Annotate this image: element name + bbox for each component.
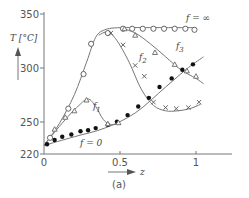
cross-marker — [121, 43, 125, 47]
open-circle-marker — [183, 26, 188, 31]
arrow-up-icon — [15, 47, 21, 56]
y-tick-label-220: 220 — [20, 149, 39, 160]
filled-circle-marker — [45, 142, 49, 146]
triangle-marker — [184, 68, 189, 73]
cross-marker — [174, 106, 178, 110]
cross-marker — [163, 105, 167, 109]
filled-circle-marker — [125, 113, 129, 117]
y-tick-label-250: 250 — [20, 117, 39, 128]
y-axis-title: T [°C] — [10, 33, 38, 43]
filled-circle-marker — [169, 76, 173, 80]
arrow-right-icon — [127, 169, 136, 175]
open-circle-marker — [47, 135, 52, 140]
label-f-zero: f = 0 — [79, 138, 103, 148]
filled-circle-marker — [93, 126, 97, 130]
filled-circle-marker — [157, 85, 161, 89]
filled-circle-marker — [69, 132, 73, 136]
cross-marker — [142, 74, 146, 78]
filled-circle-marker — [60, 135, 64, 139]
filled-circle-marker — [52, 138, 56, 142]
label-f-inf: f = ∞ — [185, 13, 210, 23]
triangle-marker — [84, 98, 89, 103]
y-tick-label-300: 300 — [20, 63, 39, 74]
x-tick-label-0: 0 — [41, 157, 47, 168]
filled-circle-marker — [147, 96, 151, 100]
triangle-marker — [152, 50, 157, 55]
y-tick-label-350: 350 — [20, 9, 39, 20]
filled-circle-marker — [191, 62, 195, 66]
open-circle-marker — [89, 41, 94, 46]
triangle-marker — [172, 62, 177, 67]
panel-label: (a) — [112, 179, 126, 190]
filled-circle-marker — [86, 128, 90, 132]
chart-canvas: 350 300 250 220 0 0.5 1 T [°C] z (a) f =… — [0, 0, 249, 198]
x-tick-label-1: 1 — [193, 157, 199, 168]
label-f1: f1 — [92, 101, 101, 114]
open-circle-marker — [172, 26, 177, 31]
open-circle-marker — [66, 106, 71, 111]
label-f3: f3 — [175, 41, 184, 54]
filled-circle-marker — [78, 129, 82, 133]
x-axis-title: z — [139, 167, 145, 177]
x-tick-label-05: 0.5 — [112, 157, 128, 168]
open-circle-marker — [140, 26, 145, 31]
filled-circle-marker — [180, 68, 184, 72]
open-circle-marker — [130, 26, 135, 31]
label-f2: f2 — [138, 52, 147, 65]
cross-marker — [197, 100, 201, 104]
filled-circle-marker — [136, 104, 140, 108]
curve-f0 — [44, 57, 204, 146]
cross-marker — [133, 63, 137, 67]
triangle-marker — [194, 74, 199, 79]
open-circle-marker — [192, 27, 197, 32]
cross-marker — [151, 100, 155, 104]
triangle-marker — [133, 33, 138, 38]
open-circle-marker — [81, 71, 86, 76]
open-circle-marker — [151, 26, 156, 31]
open-circle-marker — [161, 26, 166, 31]
curve-f3 — [120, 28, 204, 84]
triangle-marker — [72, 108, 77, 113]
